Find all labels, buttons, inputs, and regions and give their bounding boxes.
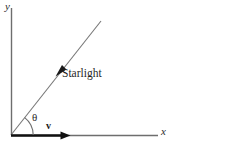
x-axis-label: x (161, 126, 166, 137)
velocity-vector-label: v (46, 121, 51, 131)
starlight-aberration-diagram: y x θ v Starlight (0, 0, 236, 146)
diagram-canvas (0, 0, 236, 146)
starlight-label: Starlight (62, 68, 102, 80)
y-axis-label: y (5, 1, 10, 12)
velocity-arrowhead-icon (61, 132, 71, 140)
theta-angle-label: θ (32, 112, 37, 123)
